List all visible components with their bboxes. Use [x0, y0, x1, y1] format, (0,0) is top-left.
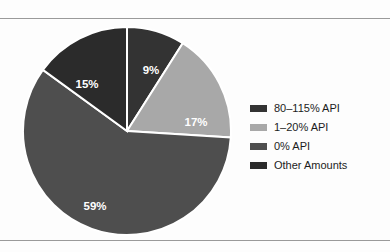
- pie-slice-label: 9%: [143, 64, 160, 76]
- pie-slice-label: 59%: [83, 200, 106, 212]
- pie-chart-figure: 9%17%59%15% 80–115% API1–20% API0% APIOt…: [0, 0, 390, 252]
- legend-item[interactable]: 1–20% API: [250, 118, 386, 136]
- top-divider-rule: [0, 18, 390, 19]
- legend-item-label: 80–115% API: [274, 103, 340, 114]
- legend-color-swatch: [250, 143, 267, 150]
- bottom-divider-rule: [0, 240, 390, 241]
- pie-slice-group: [23, 27, 231, 235]
- legend-item[interactable]: Other Amounts: [250, 156, 386, 174]
- legend-item-label: 0% API: [274, 141, 310, 152]
- pie-slice-label: 15%: [75, 78, 98, 90]
- legend-item-label: Other Amounts: [274, 160, 347, 171]
- legend-color-swatch: [250, 124, 267, 131]
- pie-chart-svg: 9%17%59%15%: [22, 26, 232, 236]
- legend-color-swatch: [250, 162, 267, 169]
- legend-item[interactable]: 0% API: [250, 137, 386, 155]
- legend-item[interactable]: 80–115% API: [250, 99, 386, 117]
- chart-legend: 80–115% API1–20% API0% APIOther Amounts: [250, 99, 386, 175]
- pie-slice-label: 17%: [184, 116, 207, 128]
- legend-color-swatch: [250, 105, 267, 112]
- legend-item-label: 1–20% API: [274, 122, 328, 133]
- pie-chart: 9%17%59%15%: [22, 26, 232, 236]
